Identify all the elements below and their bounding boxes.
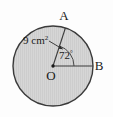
radius-measure-superscript: 2 xyxy=(45,34,49,42)
angle-measure-value: 72 xyxy=(59,49,70,61)
geometry-diagram: A B O 9 cm2 72° xyxy=(0,0,113,117)
point-label-o: O xyxy=(46,68,55,83)
degree-symbol: ° xyxy=(70,49,73,57)
geometry-svg: A B O 9 cm2 72° xyxy=(0,0,113,117)
point-label-b: B xyxy=(95,58,104,73)
radius-measure-value: 9 cm xyxy=(23,34,45,46)
point-label-a: A xyxy=(59,8,69,23)
